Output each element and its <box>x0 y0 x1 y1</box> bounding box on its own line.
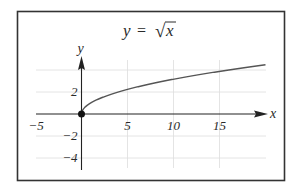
x-tick-label: −5 <box>28 118 44 133</box>
title-radical: √ <box>155 20 166 41</box>
origin-point <box>78 111 85 118</box>
chart-frame <box>18 12 285 181</box>
y-tick-label: −2 <box>62 128 78 143</box>
chart-figure: y = √ x xy −5510152−2−4 <box>0 0 299 193</box>
x-axis-label: x <box>269 106 277 121</box>
title-equals: = <box>137 22 146 39</box>
x-tick-label: 15 <box>213 118 227 133</box>
title-radicand: x <box>165 21 174 40</box>
title-lhs: y <box>121 21 131 40</box>
x-tick-label: 10 <box>167 118 181 133</box>
y-tick-label: 2 <box>71 84 78 99</box>
chart-svg: y = √ x xy −5510152−2−4 <box>0 0 299 193</box>
x-tick-label: 5 <box>124 118 131 133</box>
y-axis-label: y <box>76 41 85 56</box>
y-tick-label: −4 <box>62 150 78 165</box>
